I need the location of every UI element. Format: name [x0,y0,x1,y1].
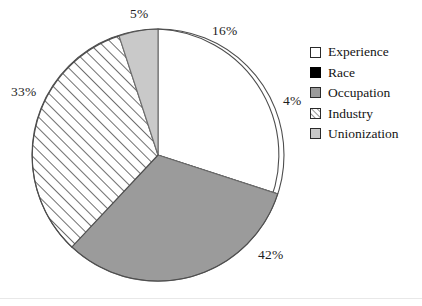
legend-item-experience: Experience [310,42,422,62]
legend-swatch-light-gray-square [310,128,321,139]
footer-divider [0,298,422,299]
legend-swatch-hatched-square [310,108,321,119]
legend-label-occupation: Occupation [328,86,390,100]
legend-swatch-black-square [310,67,321,78]
legend-item-occupation: Occupation [310,83,422,103]
pie-label-industry: 33% [11,85,36,99]
legend-item-unionization: Unionization [310,124,422,144]
chart-legend: Experience Race Occupation Industry Unio… [310,42,422,144]
legend-label-race: Race [328,66,355,80]
pie-label-occupation: 42% [258,248,283,262]
legend-label-experience: Experience [328,45,389,59]
legend-swatch-white-square [310,47,321,58]
legend-label-unionization: Unionization [328,127,399,141]
pie-label-unionization: 5% [130,7,148,21]
pie-label-race: 4% [283,94,301,108]
legend-label-industry: Industry [328,107,373,121]
legend-swatch-gray-square [310,87,321,98]
pie-chart-figure: 16% 4% 42% 33% 5% Experience Race Occupa… [0,0,422,306]
legend-item-industry: Industry [310,103,422,123]
pie-label-experience: 16% [212,24,237,38]
legend-item-race: Race [310,62,422,82]
